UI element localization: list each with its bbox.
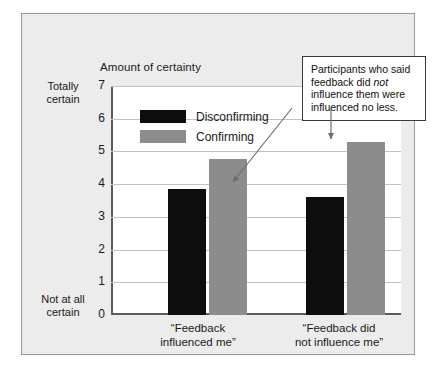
y-axis-bottom-label-line1: Not at all	[41, 293, 84, 305]
legend-label-confirming: Confirming	[196, 130, 254, 144]
y-tick-2: 2	[83, 242, 105, 256]
y-tick-7: 7	[83, 78, 105, 92]
legend-item-confirming: Confirming	[140, 128, 269, 145]
annotation-text-part1: Participants who said feedback did	[311, 63, 410, 88]
group-label-1: “Feedback influenced me”	[128, 321, 268, 349]
bar-disconfirming-group-1	[168, 189, 206, 315]
figure-panel: Amount of certainty Totally certain Not …	[21, 13, 415, 355]
annotation-callout: Participants who said feedback did not i…	[302, 56, 426, 121]
y-tick-6: 6	[83, 111, 105, 125]
chart-title: Amount of certainty	[100, 61, 201, 73]
bar-confirming-group-1	[209, 159, 247, 315]
legend-item-disconfirming: Disconfirming	[140, 108, 269, 125]
legend-label-disconfirming: Disconfirming	[196, 110, 269, 124]
y-tick-0: 0	[83, 307, 105, 321]
y-tick-5: 5	[83, 143, 105, 157]
legend-swatch-confirming-icon	[140, 130, 186, 143]
y-axis-bottom-label-line2: certain	[46, 306, 79, 318]
annotation-text-part2: influence them were influenced no less.	[311, 88, 405, 113]
y-tick-3: 3	[83, 209, 105, 223]
y-tick-4: 4	[83, 176, 105, 190]
bar-disconfirming-group-2	[306, 197, 344, 315]
legend-swatch-disconfirming-icon	[140, 110, 186, 123]
y-axis-top-label-line2: certain	[46, 93, 79, 105]
bar-confirming-group-2	[347, 142, 385, 315]
group-label-2: “Feedback did not influence me”	[264, 321, 414, 349]
y-axis-top-label-line1: Totally	[47, 80, 78, 92]
annotation-emphasis: not	[373, 76, 388, 88]
y-tick-1: 1	[83, 274, 105, 288]
legend: Disconfirming Confirming	[140, 108, 269, 148]
